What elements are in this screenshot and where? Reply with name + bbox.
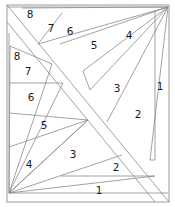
label-bl-1: 1 xyxy=(96,184,103,196)
label-bl-4: 4 xyxy=(26,158,33,170)
label-bl-2: 2 xyxy=(113,161,120,173)
geometric-figure-panel: 8 7 6 5 4 3 2 1 8 7 6 5 4 3 2 1 xyxy=(0,0,175,207)
label-bl-3: 3 xyxy=(70,148,77,160)
fan-diagram-svg: 8 7 6 5 4 3 2 1 8 7 6 5 4 3 2 1 xyxy=(0,0,175,207)
label-tr-8: 8 xyxy=(27,8,34,20)
label-bl-5: 5 xyxy=(41,119,48,131)
label-tr-5: 5 xyxy=(91,39,98,51)
label-tr-2: 2 xyxy=(135,108,142,120)
label-tr-1: 1 xyxy=(157,80,164,92)
label-tr-4: 4 xyxy=(126,29,133,41)
label-bl-8: 8 xyxy=(14,50,21,62)
label-tr-7: 7 xyxy=(48,22,55,34)
label-tr-6: 6 xyxy=(67,25,74,37)
label-bl-6: 6 xyxy=(28,91,35,103)
label-tr-3: 3 xyxy=(114,82,121,94)
label-bl-7: 7 xyxy=(25,65,32,77)
